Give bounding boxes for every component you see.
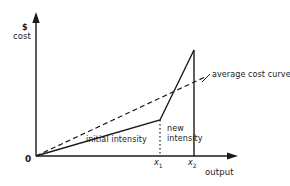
average-cost-curve-label: average cost curve xyxy=(212,71,290,80)
y-axis-label: cost xyxy=(13,32,31,41)
x-axis xyxy=(36,152,238,159)
x-axis-arrowhead xyxy=(227,152,238,159)
x-tick-x2-subscript: 2 xyxy=(193,162,197,169)
initial-intensity-label: initial intensity xyxy=(86,136,147,145)
x-tick-label-x2: x2 xyxy=(188,159,197,169)
new-intensity-label-line2: intensity xyxy=(167,134,203,144)
x-tick-x1-subscript: 1 xyxy=(159,162,163,169)
new-intensity-label-line1: new xyxy=(167,124,203,134)
new-intensity-label: new intensity xyxy=(167,124,203,144)
y-axis-arrowhead xyxy=(32,12,39,23)
x-tick-label-x1: x1 xyxy=(154,159,163,169)
origin-label: 0 xyxy=(25,155,31,165)
diagram-canvas xyxy=(0,0,290,186)
y-axis xyxy=(32,12,39,156)
cost-diagram-figure: $ cost output 0 x1 x2 initial intensity … xyxy=(0,0,290,186)
x-axis-label: output xyxy=(205,168,234,177)
